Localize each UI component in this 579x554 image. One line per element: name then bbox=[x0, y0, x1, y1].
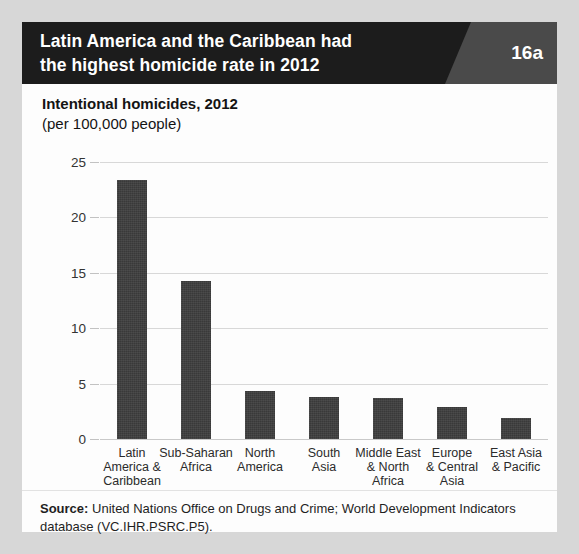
plot-area: 0510152025LatinAmerica &CaribbeanSub-Sah… bbox=[100, 162, 548, 439]
y-axis-tick-label: 15 bbox=[71, 265, 86, 280]
figure-header-title: Latin America and the Caribbean had the … bbox=[40, 29, 440, 77]
footer-divider bbox=[22, 490, 557, 491]
y-axis-tick-label: 5 bbox=[78, 376, 86, 391]
gridline-25 bbox=[100, 162, 548, 163]
x-axis-tick-label-line: & Pacific bbox=[470, 460, 562, 474]
y-tick-mark-15 bbox=[90, 273, 99, 274]
figure-number-badge-label: 16a bbox=[511, 22, 543, 84]
chart-title-group: Intentional homicides, 2012 (per 100,000… bbox=[22, 84, 557, 134]
x-axis-tick-label-line: Caribbean bbox=[86, 474, 178, 488]
source-label: Source: bbox=[40, 501, 88, 516]
x-axis-tick-label: East Asia& Pacific bbox=[470, 446, 562, 474]
figure-card: Latin America and the Caribbean had the … bbox=[22, 22, 557, 532]
chart-subtitle: (per 100,000 people) bbox=[42, 114, 557, 134]
y-axis-tick-label: 25 bbox=[71, 155, 86, 170]
page-background: Latin America and the Caribbean had the … bbox=[0, 0, 579, 554]
y-tick-mark-20 bbox=[90, 217, 99, 218]
chart-title: Intentional homicides, 2012 bbox=[42, 94, 557, 114]
y-tick-mark-0 bbox=[90, 439, 99, 440]
bar bbox=[245, 391, 275, 439]
y-axis-tick-label: 0 bbox=[78, 432, 86, 447]
chart-block: Intentional homicides, 2012 (per 100,000… bbox=[22, 84, 557, 485]
header-title-line2: the highest homicide rate in 2012 bbox=[40, 53, 440, 77]
gridline-20 bbox=[100, 217, 548, 218]
source-text: United Nations Office on Drugs and Crime… bbox=[40, 501, 516, 534]
plot-wrapper: 0510152025LatinAmerica &CaribbeanSub-Sah… bbox=[22, 140, 557, 485]
y-tick-mark-25 bbox=[90, 162, 99, 163]
y-axis-tick-label: 20 bbox=[71, 210, 86, 225]
y-axis-tick-label: 10 bbox=[71, 321, 86, 336]
gridline-15 bbox=[100, 273, 548, 274]
bar bbox=[373, 398, 403, 439]
gridline-5 bbox=[100, 384, 548, 385]
y-tick-mark-10 bbox=[90, 328, 99, 329]
bar bbox=[117, 180, 147, 439]
bar bbox=[181, 281, 211, 439]
x-axis-tick-label-line: Asia bbox=[406, 474, 498, 488]
header-title-line1: Latin America and the Caribbean had bbox=[40, 31, 352, 51]
figure-header: Latin America and the Caribbean had the … bbox=[22, 22, 557, 84]
x-axis-tick-label-line: East Asia bbox=[470, 446, 562, 460]
source-note: Source: United Nations Office on Drugs a… bbox=[40, 500, 545, 536]
gridline-0 bbox=[100, 439, 548, 440]
bar bbox=[437, 407, 467, 439]
bar bbox=[501, 418, 531, 439]
gridline-10 bbox=[100, 328, 548, 329]
y-tick-mark-5 bbox=[90, 384, 99, 385]
bar bbox=[309, 397, 339, 439]
